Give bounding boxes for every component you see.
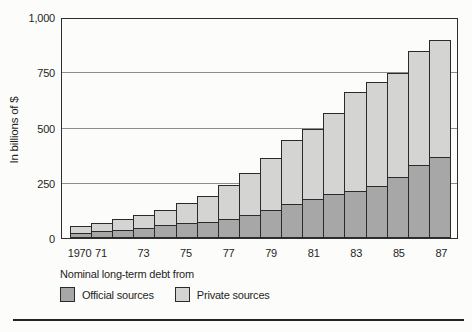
legend-label-official: Official sources xyxy=(82,289,154,301)
private-segment-1982 xyxy=(323,113,345,196)
bar-1970 xyxy=(70,226,92,238)
official-segment-1972 xyxy=(112,230,134,238)
plot-area xyxy=(61,18,458,239)
x-tick-label-1970: 1970 xyxy=(68,247,92,260)
bar-1974 xyxy=(154,210,176,238)
private-segment-1977 xyxy=(218,185,240,220)
official-segment-1987 xyxy=(429,157,451,238)
official-sources-swatch xyxy=(60,287,75,302)
bottom-rule xyxy=(13,319,464,321)
private-sources-swatch xyxy=(175,287,190,302)
private-segment-1974 xyxy=(154,210,176,227)
bar-1979 xyxy=(260,158,282,238)
y-tick-label-1,000: 1,000 xyxy=(0,12,55,24)
private-segment-1973 xyxy=(133,215,155,229)
private-segment-1980 xyxy=(281,140,303,205)
bars-container xyxy=(70,19,451,238)
x-tick-label-77: 77 xyxy=(223,247,235,260)
official-segment-1984 xyxy=(366,186,388,238)
x-tick-label-83: 83 xyxy=(350,247,362,260)
private-segment-1975 xyxy=(176,203,198,224)
y-tick-label-750: 750 xyxy=(0,67,55,79)
official-segment-1973 xyxy=(133,228,155,238)
x-tick-label-73: 73 xyxy=(138,247,150,260)
bar-1981 xyxy=(302,129,324,238)
debt-chart-figure: In billions of $ 02505007501,000 1970717… xyxy=(0,0,472,332)
official-segment-1975 xyxy=(176,223,198,238)
y-tick-label-0: 0 xyxy=(0,233,55,245)
bar-1984 xyxy=(366,82,388,238)
official-segment-1978 xyxy=(239,215,261,238)
official-segment-1980 xyxy=(281,204,303,238)
private-segment-1978 xyxy=(239,173,261,216)
bar-1973 xyxy=(133,215,155,238)
bar-1977 xyxy=(218,185,240,238)
private-segment-1987 xyxy=(429,40,451,158)
private-segment-1985 xyxy=(387,73,409,178)
legend-label-private: Private sources xyxy=(197,289,270,301)
bar-1971 xyxy=(91,223,113,238)
x-tick-label-75: 75 xyxy=(180,247,192,260)
y-tick-label-500: 500 xyxy=(0,123,55,135)
x-tick-label-87: 87 xyxy=(435,247,447,260)
official-segment-1986 xyxy=(408,165,430,238)
bar-1975 xyxy=(176,203,198,238)
official-segment-1974 xyxy=(154,225,176,238)
x-tick-label-71: 71 xyxy=(95,247,107,260)
official-segment-1985 xyxy=(387,177,409,238)
y-tick-label-250: 250 xyxy=(0,178,55,190)
official-segment-1977 xyxy=(218,219,240,238)
bar-1982 xyxy=(323,113,345,238)
private-segment-1976 xyxy=(197,196,219,223)
y-axis-labels: 02505007501,000 xyxy=(0,0,55,260)
official-segment-1971 xyxy=(91,231,113,238)
legend-item-official: Official sources xyxy=(60,287,154,302)
x-tick-label-81: 81 xyxy=(308,247,320,260)
bar-1983 xyxy=(344,92,366,238)
official-segment-1982 xyxy=(323,194,345,238)
private-segment-1984 xyxy=(366,82,388,187)
official-segment-1970 xyxy=(70,233,92,239)
bar-1978 xyxy=(239,173,261,238)
legend-items: Official sources Private sources xyxy=(60,287,420,302)
bar-1987 xyxy=(429,40,451,238)
official-segment-1981 xyxy=(302,199,324,238)
private-segment-1983 xyxy=(344,92,366,192)
private-segment-1979 xyxy=(260,158,282,210)
official-segment-1976 xyxy=(197,222,219,238)
legend: Nominal long-term debt from Official sou… xyxy=(60,268,420,302)
private-segment-1986 xyxy=(408,51,430,166)
private-segment-1981 xyxy=(302,129,324,199)
bar-1985 xyxy=(387,73,409,238)
official-segment-1979 xyxy=(260,210,282,238)
bar-1980 xyxy=(281,140,303,238)
bar-1976 xyxy=(197,196,219,238)
bar-1986 xyxy=(408,51,430,238)
official-segment-1983 xyxy=(344,191,366,238)
x-tick-label-85: 85 xyxy=(393,247,405,260)
bar-1972 xyxy=(112,219,134,238)
legend-item-private: Private sources xyxy=(175,287,270,302)
x-tick-label-79: 79 xyxy=(265,247,277,260)
x-axis-labels: 1970717375777981838587 xyxy=(0,247,472,261)
legend-title: Nominal long-term debt from xyxy=(60,268,420,281)
